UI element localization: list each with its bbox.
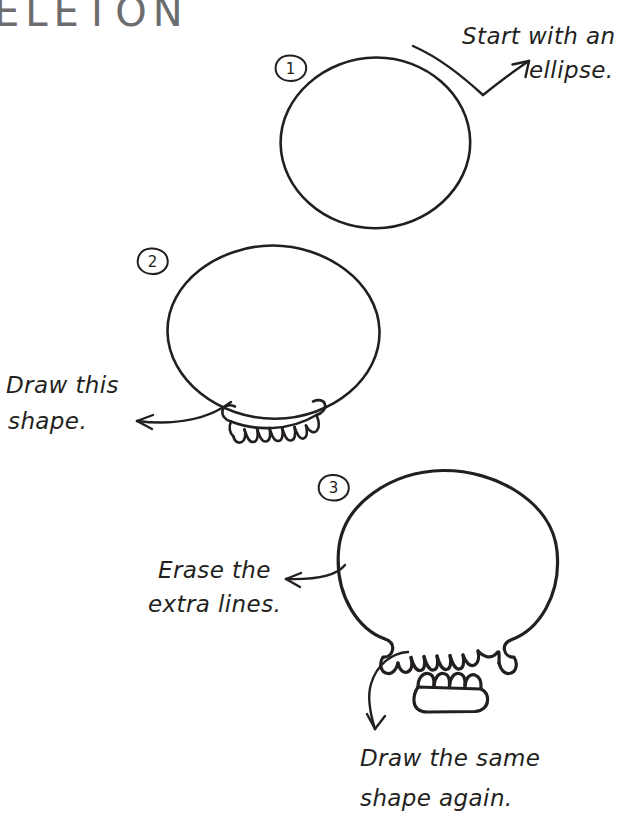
step-2-annotation-line2: shape. — [8, 408, 87, 434]
step-3-lower-jaw — [414, 673, 488, 712]
step-1-marker-label: 1 — [286, 60, 296, 78]
step-2-annotation-arrow — [137, 402, 231, 429]
page-title: ELETON — [0, 0, 189, 35]
step-3-marker-label: 3 — [329, 479, 339, 497]
step-1-annotation-arrow — [413, 46, 529, 95]
step-2-tooth-row — [222, 400, 325, 442]
tutorial-illustration: ELETON 1 Start with an ellipse. — [0, 0, 621, 825]
step-3-annotation2-line2: shape again. — [360, 785, 513, 811]
step-3-annotation-arrow — [286, 565, 345, 587]
drawing-tutorial-sheet: ELETON 1 Start with an ellipse. — [0, 0, 621, 825]
step-1-ellipse — [281, 57, 471, 228]
step-3-annotation-line2: extra lines. — [148, 591, 281, 617]
step-2-marker: 2 — [138, 248, 168, 274]
step-1-annotation-line2: ellipse. — [529, 57, 614, 83]
step-3-marker: 3 — [319, 475, 349, 501]
step-3-annotation2-line1: Draw the same — [360, 745, 540, 771]
step-3-annotation2-arrow — [367, 652, 408, 729]
step-1-annotation-line1: Start with an — [462, 23, 615, 49]
step-3-skull-outline-left — [338, 471, 443, 674]
step-3-skull-outline — [443, 470, 558, 673]
step-1-marker: 1 — [276, 55, 307, 81]
step-2-annotation-line1: Draw this — [6, 372, 119, 398]
step-3-annotation-line1: Erase the — [158, 557, 271, 583]
step-1-group: 1 — [276, 55, 471, 228]
step-3-upper-teeth — [398, 651, 499, 672]
step-2-ellipse — [167, 245, 379, 418]
step-2-group: 2 — [138, 245, 380, 442]
step-2-marker-label: 2 — [148, 253, 158, 271]
step-3-group: 3 — [319, 470, 558, 712]
